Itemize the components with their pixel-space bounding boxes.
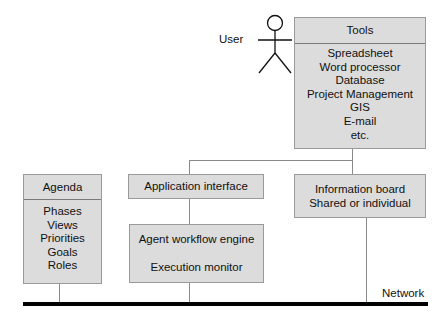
user-actor-icon [250,10,300,80]
connector-tools-down [352,149,353,174]
network-label: Network [382,287,424,299]
application-interface-box: Application interface [128,174,264,199]
tools-item: Spreadsheet [295,47,425,61]
agenda-item: Roles [24,259,101,273]
agenda-item: Goals [24,246,101,260]
tools-item: GIS [295,101,425,115]
application-interface-label: Application interface [144,180,248,192]
execution-monitor-label: Execution monitor [130,261,263,275]
info-board-sublabel: Shared or individual [295,197,425,211]
network-bus [23,302,428,306]
agent-engine-label: Agent workflow engine [130,233,263,247]
tools-item: Word processor [295,61,425,75]
agent-workflow-box: Agent workflow engine Execution monitor [129,224,264,283]
connector-info-network [366,217,367,303]
agenda-box: Agenda Phases Views Priorities Goals Rol… [23,174,102,284]
connector-app-agent [189,199,190,224]
connector-horizontal [189,160,353,161]
agenda-title: Agenda [24,175,101,200]
tools-item: E-mail [295,115,425,129]
information-board-box: Information board Shared or individual [294,174,426,218]
tools-item: Database [295,74,425,88]
agenda-item: Phases [24,205,101,219]
info-board-label: Information board [295,183,425,197]
tools-title: Tools [295,18,425,44]
agenda-item: Priorities [24,232,101,246]
tools-item: etc. [295,129,425,143]
connector-agenda-network [59,283,60,303]
connector-app-up [189,160,190,174]
tools-item: Project Management [295,88,425,102]
user-label: User [219,33,243,45]
agenda-item: Views [24,219,101,233]
tools-box: Tools Spreadsheet Word processor Databas… [294,17,426,149]
connector-agent-network [189,282,190,303]
